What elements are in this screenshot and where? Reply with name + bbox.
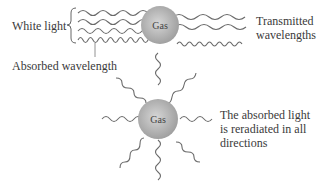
reradiated-label-1: The absorbed light <box>220 109 310 122</box>
transmitted-waves <box>173 15 246 47</box>
transmitted-label-1: Transmitted <box>256 15 314 28</box>
gas-label-top: Gas <box>152 20 168 31</box>
reradiated-label-3: directions <box>220 137 267 150</box>
gas-label-bottom: Gas <box>150 114 166 125</box>
absorbed-wavelength-label: Absorbed wavelength <box>12 60 117 73</box>
white-light-label: White light <box>12 20 66 33</box>
reradiated-label-2: is reradiated in all <box>220 123 306 136</box>
brace-icon <box>67 8 76 43</box>
transmitted-label-2: wavelengths <box>256 29 316 42</box>
absorption-diagram: Gas Gas White light Absorbed wavelength … <box>0 0 317 194</box>
